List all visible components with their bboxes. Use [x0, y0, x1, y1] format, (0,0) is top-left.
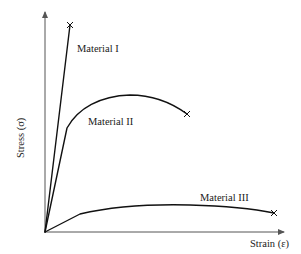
material-1-label: Material I — [77, 43, 119, 54]
y-axis-label: Stress (σ) — [15, 117, 27, 158]
material-3-curve — [45, 205, 277, 232]
stress-strain-diagram: Material I Material II Material III Stra… — [0, 0, 301, 254]
material-2-label: Material II — [88, 116, 134, 127]
x-axis-label: Strain (ε) — [250, 238, 290, 250]
material-1-curve — [45, 22, 73, 232]
fracture-mark-icon — [184, 111, 190, 117]
material-3-label: Material III — [200, 192, 249, 203]
diagram-canvas: Material I Material II Material III Stra… — [0, 0, 301, 254]
